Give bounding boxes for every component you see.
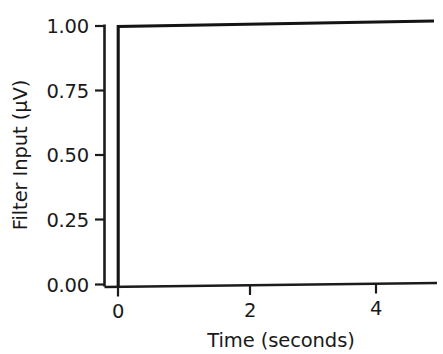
y-axis-label: Filter Input (µV)	[9, 80, 32, 230]
y-tick-label-0-50: 0.50	[46, 144, 89, 167]
y-tick-label-0-75: 0.75	[46, 80, 89, 103]
y-tick-label-0-25: 0.25	[46, 209, 89, 232]
step-response-plot: 1.00 0.75 0.50 0.25 0.00 0 2 4 Time (sec…	[0, 0, 443, 354]
chart-figure: 1.00 0.75 0.50 0.25 0.00 0 2 4 Time (sec…	[0, 0, 443, 354]
y-tick-label-0-00: 0.00	[46, 274, 89, 297]
x-axis-label: Time (seconds)	[206, 329, 354, 352]
y-tick-label-1-00: 1.00	[46, 15, 89, 38]
x-tick-label-4: 4	[370, 297, 382, 320]
x-tick-label-2: 2	[244, 299, 256, 322]
x-tick-label-0: 0	[112, 300, 124, 323]
